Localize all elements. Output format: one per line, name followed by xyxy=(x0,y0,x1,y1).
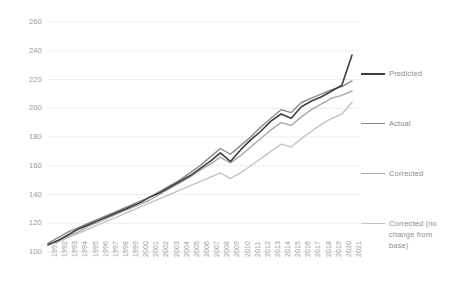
legend-entry[interactable]: Actual xyxy=(361,118,453,129)
x-tick-label: 2013 xyxy=(274,241,281,257)
y-tick-label: 260 xyxy=(20,18,42,26)
y-tick-label: 180 xyxy=(20,133,42,141)
legend-swatch xyxy=(361,73,385,75)
x-tick-label: 2009 xyxy=(233,241,240,257)
x-tick-label: 1995 xyxy=(92,241,99,257)
x-tick-label: 1998 xyxy=(122,241,129,257)
legend-label: Actual xyxy=(389,118,453,129)
chart-legend: PredictedActualCorrectedCorrected (no ch… xyxy=(361,0,461,299)
x-tick-label: 2000 xyxy=(142,241,149,257)
y-tick-label: 220 xyxy=(20,76,42,84)
x-tick-label: 2003 xyxy=(173,241,180,257)
series-line xyxy=(48,55,352,245)
x-tick-label: 1994 xyxy=(81,241,88,257)
legend-label: Corrected (no change from base) xyxy=(389,218,453,251)
series-lines xyxy=(48,55,352,245)
legend-entry[interactable]: Predicted xyxy=(361,68,453,79)
x-tick-label: 2011 xyxy=(254,242,261,257)
legend-swatch xyxy=(361,173,385,174)
y-tick-label: 200 xyxy=(20,104,42,112)
line-chart: 260240220200180160140120100 199119921993… xyxy=(0,0,461,299)
x-tick-label: 1999 xyxy=(132,241,139,257)
x-tick-label: 1996 xyxy=(102,241,109,257)
x-tick-label: 2001 xyxy=(152,241,159,257)
x-tick-label: 2012 xyxy=(264,241,271,257)
legend-entry[interactable]: Corrected (no change from base) xyxy=(361,218,453,251)
y-tick-label: 140 xyxy=(20,191,42,199)
x-tick-label: 1997 xyxy=(112,241,119,257)
x-tick-label: 2020 xyxy=(345,241,352,257)
x-tick-label: 1991 xyxy=(51,241,58,257)
x-tick-label: 2008 xyxy=(223,241,230,257)
legend-swatch xyxy=(361,123,385,124)
x-tick-label: 2019 xyxy=(335,241,342,257)
x-tick-label: 2004 xyxy=(183,241,190,257)
gridlines xyxy=(48,22,360,252)
legend-label: Corrected xyxy=(389,168,453,179)
y-tick-label: 160 xyxy=(20,162,42,170)
x-tick-label: 2015 xyxy=(294,241,301,257)
series-line xyxy=(48,81,352,243)
y-tick-label: 100 xyxy=(20,248,42,256)
y-tick-label: 120 xyxy=(20,219,42,227)
x-tick-label: 2018 xyxy=(325,241,332,257)
x-tick-label: 2005 xyxy=(193,241,200,257)
y-tick-label: 240 xyxy=(20,47,42,55)
x-tick-label: 1992 xyxy=(61,241,68,257)
legend-swatch xyxy=(361,223,385,224)
x-tick-label: 2007 xyxy=(213,241,220,257)
x-tick-label: 2002 xyxy=(162,241,169,257)
x-tick-label: 2010 xyxy=(244,241,251,257)
x-tick-label: 1993 xyxy=(71,241,78,257)
legend-entry[interactable]: Corrected xyxy=(361,168,453,179)
legend-label: Predicted xyxy=(389,68,453,79)
x-tick-label: 2006 xyxy=(203,241,210,257)
x-tick-label: 2016 xyxy=(304,241,311,257)
x-tick-label: 2017 xyxy=(314,241,321,257)
x-tick-label: 2014 xyxy=(284,241,291,257)
